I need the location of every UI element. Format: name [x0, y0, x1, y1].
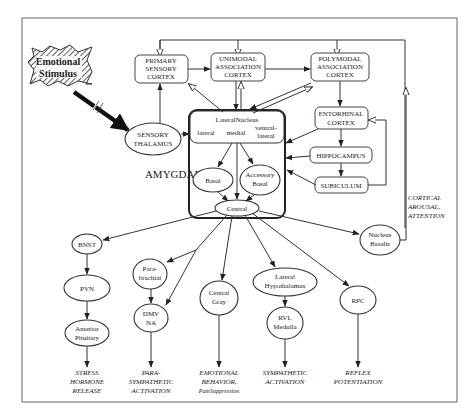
svg-text:ACTIVATION: ACTIVATION: [131, 387, 171, 395]
lateral-hypothalamus: Lateral Hypothalamus: [253, 268, 317, 296]
svg-text:ASSOCIATION: ASSOCIATION: [317, 63, 363, 71]
anterior-pituitary: Anterior Pituitary: [65, 320, 109, 346]
stimulus-arrow: [74, 92, 128, 130]
svg-text:BNST: BNST: [78, 241, 97, 249]
svg-text:CORTEX: CORTEX: [224, 71, 252, 79]
cortical-arousal-label: CORTICAL AROUSAL, ATTENTION: [407, 194, 445, 220]
svg-text:ASSOCIATION: ASSOCIATION: [215, 63, 261, 71]
svg-text:RPC: RPC: [351, 297, 365, 305]
svg-text:THALAMUS: THALAMUS: [134, 140, 173, 148]
svg-text:Basal: Basal: [252, 180, 268, 188]
amygdala-pathway-diagram: Emotional Stimulus PRIMARY SENSORY CORTE…: [0, 0, 474, 420]
svg-text:POTENTIATION: POTENTIATION: [333, 378, 383, 386]
svg-text:Gray: Gray: [212, 298, 226, 306]
svg-text:EMOTIONAL: EMOTIONAL: [198, 369, 238, 377]
svg-text:Central: Central: [227, 205, 248, 213]
entorhinal-cortex: ENTORHINAL CORTEX: [315, 107, 368, 129]
response-reflex-potentiation: REFLEX POTENTIATION: [333, 369, 383, 386]
response-stress-hormone: STRESS HORMONE RELEASE: [69, 369, 105, 395]
svg-text:SUBICULUM: SUBICULUM: [320, 182, 362, 190]
emotional-stimulus: Emotional Stimulus: [28, 45, 92, 86]
polymodal-association-cortex: POLYMODAL ASSOCIATION CORTEX: [311, 53, 369, 81]
svg-text:Anterior: Anterior: [75, 325, 99, 333]
svg-text:Basalis: Basalis: [370, 240, 390, 248]
response-parasympathetic: PARA- SYMPATHETIC ACTIVATION: [129, 369, 174, 395]
svg-text:REFLEX: REFLEX: [344, 369, 371, 377]
svg-text:Central: Central: [209, 289, 230, 297]
basal: Basal: [193, 168, 233, 192]
svg-text:SENSORY: SENSORY: [145, 65, 177, 73]
svg-text:Emotional: Emotional: [36, 56, 81, 67]
svg-text:HIPPOCAMPUS: HIPPOCAMPUS: [316, 152, 365, 160]
svg-text:NA: NA: [146, 319, 156, 327]
rvl-medulla: RVL Medulla: [267, 307, 303, 339]
svg-text:PRIMARY: PRIMARY: [145, 57, 177, 65]
dmv-na: DMV NA: [134, 304, 168, 332]
svg-text:PainSuppression: PainSuppression: [198, 388, 239, 394]
svg-text:SYMPATHETIC: SYMPATHETIC: [263, 369, 308, 377]
svg-text:SENSORY: SENSORY: [137, 131, 169, 139]
unimodal-association-cortex: UNIMODAL ASSOCIATION CORTEX: [211, 53, 265, 81]
svg-text:RELEASE: RELEASE: [72, 387, 102, 395]
svg-text:BEHAVIOR,: BEHAVIOR,: [201, 378, 236, 386]
svg-text:PVN: PVN: [80, 285, 94, 293]
response-sympathetic: SYMPATHETIC ACTIVATION: [263, 369, 308, 386]
svg-text:Pituitary: Pituitary: [75, 334, 100, 342]
svg-text:Basal: Basal: [205, 177, 221, 185]
central-gray: Central Gray: [200, 281, 238, 315]
svg-text:CORTICAL: CORTICAL: [408, 194, 441, 202]
svg-text:ventral-: ventral-: [255, 124, 277, 132]
svg-text:UNIMODAL: UNIMODAL: [219, 55, 257, 63]
svg-text:ENTORHINAL: ENTORHINAL: [319, 110, 364, 118]
accessory-basal: Accessory Basal: [240, 165, 280, 195]
svg-text:Accessory: Accessory: [245, 171, 275, 179]
hippocampus: HIPPOCAMPUS: [310, 147, 372, 163]
lateral-nucleus: LateralNucleus lateral medial ventral- l…: [190, 111, 284, 143]
svg-text:HORMONE: HORMONE: [69, 378, 105, 386]
svg-text:CORTEX: CORTEX: [326, 71, 354, 79]
subiculum: SUBICULUM: [315, 177, 368, 193]
svg-text:medial: medial: [226, 129, 245, 137]
svg-text:LateralNucleus: LateralNucleus: [216, 116, 259, 124]
svg-text:RVL: RVL: [278, 314, 291, 322]
primary-sensory-cortex: PRIMARY SENSORY CORTEX: [135, 55, 188, 83]
response-emotional-behavior: EMOTIONAL BEHAVIOR, PainSuppression: [198, 369, 239, 394]
svg-text:Stimulus: Stimulus: [39, 68, 77, 79]
svg-text:ATTENTION: ATTENTION: [407, 212, 445, 220]
svg-text:ACTIVATION: ACTIVATION: [265, 378, 305, 386]
svg-text:AROUSAL,: AROUSAL,: [407, 203, 440, 211]
svg-text:Medulla: Medulla: [273, 323, 297, 331]
bnst: BNST: [72, 234, 102, 254]
svg-text:CORTEX: CORTEX: [147, 73, 175, 81]
svg-text:CORTEX: CORTEX: [327, 119, 355, 127]
svg-text:STRESS: STRESS: [76, 369, 99, 377]
svg-text:POLYMODAL: POLYMODAL: [318, 55, 361, 63]
pvn: PVN: [64, 275, 110, 301]
sensory-thalamus: SENSORY THALAMUS: [125, 123, 181, 155]
svg-text:Lateral: Lateral: [275, 273, 295, 281]
svg-text:lateral: lateral: [197, 129, 215, 137]
nucleus-basalis: Nucleus Basalis: [360, 225, 400, 255]
rpc: RPC: [340, 286, 376, 314]
svg-text:Hypothalamus: Hypothalamus: [265, 282, 306, 290]
parabrachial: Para- brachial: [133, 259, 167, 289]
svg-text:Nucleus: Nucleus: [369, 231, 392, 239]
svg-text:SYMPATHETIC: SYMPATHETIC: [129, 378, 174, 386]
svg-text:Para-: Para-: [143, 265, 158, 273]
svg-text:DMV: DMV: [143, 310, 159, 318]
svg-text:PARA-: PARA-: [141, 369, 161, 377]
svg-text:brachial: brachial: [139, 274, 162, 282]
svg-text:lateral: lateral: [257, 132, 275, 140]
